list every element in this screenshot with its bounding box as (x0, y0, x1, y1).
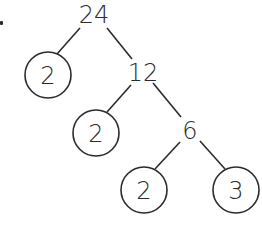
node-6: 6 (170, 119, 210, 143)
node-prime-2-bottom: 2 (124, 179, 164, 203)
edge-24-to-2 (57, 28, 80, 54)
edge-24-to-12 (107, 28, 132, 59)
node-24: 24 (74, 3, 114, 27)
edge-6-to-3 (200, 141, 225, 169)
node-prime-3: 3 (216, 179, 256, 203)
edge-6-to-2 (155, 142, 180, 169)
node-prime-2-top: 2 (28, 64, 68, 88)
edge-12-to-2 (107, 85, 131, 112)
node-prime-2-middle: 2 (76, 122, 116, 146)
edge-12-to-6 (153, 83, 181, 117)
node-12: 12 (123, 61, 163, 85)
